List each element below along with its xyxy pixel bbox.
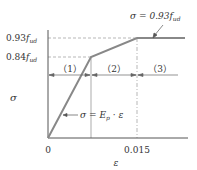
x-axis-label: ε <box>114 158 119 168</box>
region-label-2: （2） <box>102 64 126 74</box>
elastic-leader-arrow <box>63 114 78 117</box>
plateau-annotation: σ = 0.93fud <box>130 11 181 22</box>
elastic-annotation: σ = Ep · ε <box>80 110 123 122</box>
plateau-leader-arrow <box>153 25 163 38</box>
x-tick-0: 0 <box>45 145 51 155</box>
y-axis-label: σ <box>10 92 18 103</box>
y-tick-084: 0.84fud <box>6 52 37 63</box>
region-label-1: （1） <box>58 64 82 74</box>
stress-strain-curve <box>48 38 185 138</box>
region-label-3: （3） <box>148 64 172 74</box>
stress-strain-diagram: （1） （2） （3） 0.93fud 0.84fud σ 0 0.015 ε … <box>0 0 197 170</box>
x-tick-0015: 0.015 <box>124 145 150 155</box>
y-tick-093: 0.93fud <box>6 33 37 44</box>
